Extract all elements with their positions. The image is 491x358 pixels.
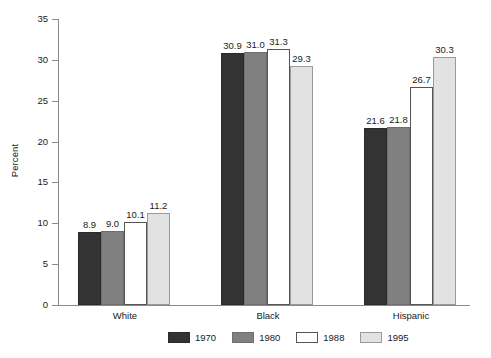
legend-item-1988: 1988 — [296, 332, 344, 343]
y-tick-25 — [52, 101, 58, 102]
legend-item-1995: 1995 — [360, 332, 408, 343]
bar-value-white-1995: 11.2 — [144, 201, 174, 211]
bar-white-1980 — [101, 231, 124, 305]
legend-label-1988: 1988 — [323, 333, 344, 343]
y-tick-30 — [52, 60, 58, 61]
bar-value-black-1995: 29.3 — [287, 54, 317, 64]
legend-item-1970: 1970 — [168, 332, 216, 343]
y-tick-10 — [52, 223, 58, 224]
bar-black-1970 — [221, 53, 244, 305]
y-tick-20 — [52, 142, 58, 143]
y-axis-line — [58, 19, 59, 306]
legend-item-1980: 1980 — [232, 332, 280, 343]
y-tick-label-25: 25 — [26, 96, 48, 106]
bar-white-1995 — [147, 213, 170, 305]
bar-black-1980 — [244, 52, 267, 305]
bar-chart: Percent 05101520253035 8.99.010.111.230.… — [0, 0, 491, 358]
x-axis-line — [58, 305, 470, 306]
bar-black-1995 — [290, 66, 313, 305]
y-tick-label-5: 5 — [26, 259, 48, 269]
bar-value-hispanic-1988: 26.7 — [407, 75, 437, 85]
y-tick-label-10: 10 — [26, 218, 48, 228]
legend-swatch-1980 — [232, 332, 254, 343]
bar-hispanic-1970 — [364, 128, 387, 305]
y-tick-5 — [52, 264, 58, 265]
bar-value-hispanic-1980: 21.8 — [384, 115, 414, 125]
bar-value-white-1980: 9.0 — [98, 219, 128, 229]
y-tick-15 — [52, 182, 58, 183]
legend-label-1995: 1995 — [387, 333, 408, 343]
legend-swatch-1988 — [296, 332, 318, 343]
x-axis-label-white: White — [82, 311, 168, 321]
y-tick-label-15: 15 — [26, 177, 48, 187]
y-tick-0 — [52, 305, 58, 306]
bar-white-1988 — [124, 222, 147, 305]
y-tick-label-0: 0 — [26, 300, 48, 310]
legend: 1970 1980 1988 1995 — [168, 332, 425, 343]
bar-value-hispanic-1995: 30.3 — [430, 45, 460, 55]
y-tick-label-35: 35 — [26, 14, 48, 24]
legend-swatch-1970 — [168, 332, 190, 343]
legend-label-1970: 1970 — [195, 333, 216, 343]
bar-white-1970 — [78, 232, 101, 305]
legend-swatch-1995 — [360, 332, 382, 343]
y-tick-label-20: 20 — [26, 137, 48, 147]
bar-value-white-1988: 10.1 — [121, 210, 151, 220]
bar-hispanic-1980 — [387, 127, 410, 305]
y-tick-label-30: 30 — [26, 55, 48, 65]
bar-hispanic-1988 — [410, 87, 433, 305]
bar-value-black-1988: 31.3 — [264, 37, 294, 47]
bar-black-1988 — [267, 49, 290, 305]
y-tick-35 — [52, 19, 58, 20]
bar-hispanic-1995 — [433, 57, 456, 305]
y-axis-title: Percent — [9, 126, 20, 196]
x-axis-label-hispanic: Hispanic — [368, 311, 454, 321]
x-axis-label-black: Black — [225, 311, 311, 321]
legend-label-1980: 1980 — [259, 333, 280, 343]
